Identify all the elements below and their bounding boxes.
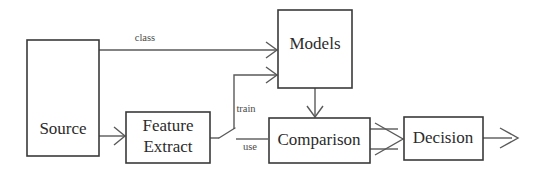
node-source-box[interactable] bbox=[27, 40, 99, 156]
node-models-label: Models bbox=[290, 34, 341, 53]
node-comparison[interactable]: Comparison bbox=[269, 118, 370, 163]
edge-comparison-to-decision bbox=[370, 123, 403, 155]
node-source[interactable]: Source bbox=[27, 40, 99, 156]
node-models[interactable]: Models bbox=[278, 10, 352, 88]
node-feature-extract-label-line1: Feature bbox=[143, 116, 194, 135]
flow-diagram: class train use bbox=[0, 0, 536, 178]
switch-lever-icon bbox=[219, 128, 235, 138]
edge-label-class: class bbox=[135, 32, 155, 43]
edge-source-to-feature bbox=[99, 127, 125, 145]
edge-comparison-to-decision-arrowhead bbox=[375, 123, 403, 155]
node-decision[interactable]: Decision bbox=[404, 117, 483, 160]
edge-feature-to-comparison: use bbox=[236, 139, 268, 152]
node-feature-extract[interactable]: Feature Extract bbox=[126, 112, 210, 163]
edge-label-train: train bbox=[236, 103, 256, 114]
diagram-canvas: class train use bbox=[0, 0, 536, 178]
edge-source-to-models: class bbox=[99, 32, 277, 58]
node-decision-label: Decision bbox=[413, 128, 474, 147]
edge-decision-output bbox=[483, 128, 518, 148]
node-source-label: Source bbox=[39, 119, 86, 138]
node-comparison-label: Comparison bbox=[277, 130, 361, 149]
edge-label-use: use bbox=[243, 141, 257, 152]
edge-models-to-comparison bbox=[307, 88, 323, 117]
edge-feature-switch bbox=[210, 128, 235, 138]
node-feature-extract-label-line2: Extract bbox=[143, 137, 192, 156]
